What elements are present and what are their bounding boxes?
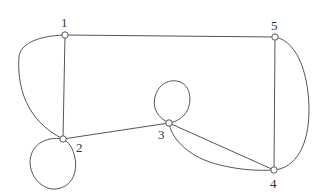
edge-2-3 (63, 123, 169, 139)
node-3 (166, 120, 172, 126)
node-label-1: 1 (61, 15, 68, 30)
node-5 (272, 34, 278, 40)
edge-1-5 (65, 35, 275, 37)
edge-1-2-straight (63, 35, 65, 139)
node-4 (271, 167, 277, 173)
node-label-5: 5 (271, 18, 278, 33)
node-label-4: 4 (270, 176, 277, 191)
nodes (60, 32, 278, 173)
node-label-2: 2 (76, 140, 83, 155)
node-1 (62, 32, 68, 38)
edge-3-4-straight (169, 123, 274, 170)
edge-2-loop (30, 138, 76, 189)
edges (19, 35, 309, 189)
labels: 1 2 3 4 5 (61, 15, 278, 191)
edge-3-loop (154, 81, 190, 123)
edge-5-4-curved (274, 37, 309, 170)
edge-5-4-straight (274, 37, 275, 170)
graph-diagram: 1 2 3 4 5 (0, 0, 325, 196)
edge-1-2-curved (19, 35, 65, 139)
node-label-3: 3 (158, 127, 165, 142)
node-2 (60, 136, 66, 142)
